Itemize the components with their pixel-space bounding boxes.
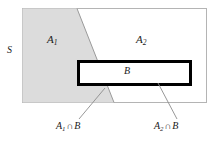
intersection-operator-icon: ∩ [66,121,75,131]
label-region-a1-subscript: 1 [54,38,58,47]
label-region-a1-letter: A [47,33,54,45]
set-partition-diagram: S A1 A2 B A1∩B A2∩B [0,0,217,143]
label-sample-space: S [7,45,12,55]
label-event-b: B [124,66,130,76]
caption-a2-subscript: 2 [160,125,163,132]
diagram-canvas [0,0,217,143]
label-region-a2-subscript: 2 [143,38,147,47]
event-b-rect [79,62,191,85]
label-event-b-text: B [124,65,130,76]
caption-a1-other: B [74,120,80,131]
intersection-operator-icon-2: ∩ [164,121,173,131]
caption-a1-subscript: 1 [62,125,65,132]
caption-a2-other: B [172,120,178,131]
label-region-a1: A1 [47,34,57,45]
caption-a2-intersect-b: A2∩B [154,121,178,131]
label-region-a2-letter: A [136,33,143,45]
caption-a1-intersect-b: A1∩B [56,121,80,131]
label-region-a2: A2 [136,34,146,45]
label-sample-space-text: S [7,44,12,55]
